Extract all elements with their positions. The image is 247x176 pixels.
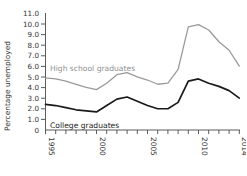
x-tick-label: 2010 — [200, 137, 209, 156]
y-tick-label: 5.0 — [28, 73, 40, 82]
y-tick-label: 10.0 — [23, 20, 39, 29]
y-tick-label: 7.0 — [28, 51, 40, 60]
y-tick-label: 6.0 — [28, 62, 40, 71]
unemployment-line-chart: Percentage unemployed 11.0 10.0 9.0 8.0 … — [0, 0, 246, 176]
y-tick-label: 1.0 — [28, 115, 40, 124]
x-tick-label: 2000 — [98, 137, 107, 156]
y-axis-title: Percentage unemployed — [3, 41, 12, 131]
y-tick-label: 0 — [34, 126, 39, 135]
y-tick-label: 2.0 — [28, 104, 40, 113]
x-axis-tick-labels: 1995 2000 2005 2010 2014 — [47, 137, 247, 156]
y-tick-label: 11.0 — [23, 9, 39, 18]
chart-figure: Percentage unemployed 11.0 10.0 9.0 8.0 … — [0, 0, 246, 176]
x-tick-label: 2014 — [240, 137, 246, 156]
series-line-high-school-graduates — [46, 25, 240, 90]
series-annotation-college-graduates: College graduates — [50, 121, 119, 130]
y-tick-label: 3.0 — [28, 94, 40, 103]
y-axis-title-text: Percentage unemployed — [3, 41, 12, 131]
y-axis-tick-marks — [41, 24, 45, 119]
y-tick-label: 4.0 — [28, 83, 40, 92]
x-axis-tick-marks — [46, 130, 240, 134]
x-tick-label: 2005 — [149, 137, 158, 156]
series-annotation-high-school-graduates: High school graduates — [50, 64, 135, 73]
y-tick-label: 8.0 — [28, 41, 40, 50]
x-tick-label: 1995 — [47, 137, 56, 156]
y-axis-tick-labels: 11.0 10.0 9.0 8.0 7.0 6.0 5.0 4.0 3.0 2.… — [23, 9, 39, 135]
y-tick-label: 9.0 — [28, 30, 40, 39]
